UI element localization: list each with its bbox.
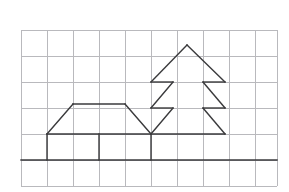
drawing-canvas: Line drawing of a house and a fir tree o… [0, 0, 289, 192]
canvas-background [0, 0, 289, 192]
figure-svg: Line drawing of a house and a fir tree o… [0, 0, 289, 192]
